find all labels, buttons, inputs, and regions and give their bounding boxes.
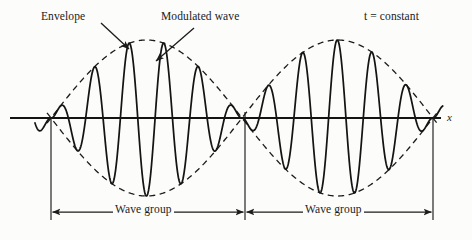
modulated-wave-label: Modulated wave [161,10,239,22]
envelope-leader [101,23,129,49]
envelope-label: Envelope [41,10,85,22]
wave-group-label-2: Wave group [303,203,364,215]
wave-group-label-1: Wave group [113,203,174,215]
x-axis-label: x [447,111,452,123]
figure-canvas [0,0,472,240]
modulated-wave-figure: Envelope Modulated wave t = constant x W… [0,0,472,240]
envelope-curve-upper [47,40,437,118]
annotation-leader-lines [101,23,194,61]
t-constant-label: t = constant [364,10,419,22]
envelope-curve-lower [47,118,437,196]
